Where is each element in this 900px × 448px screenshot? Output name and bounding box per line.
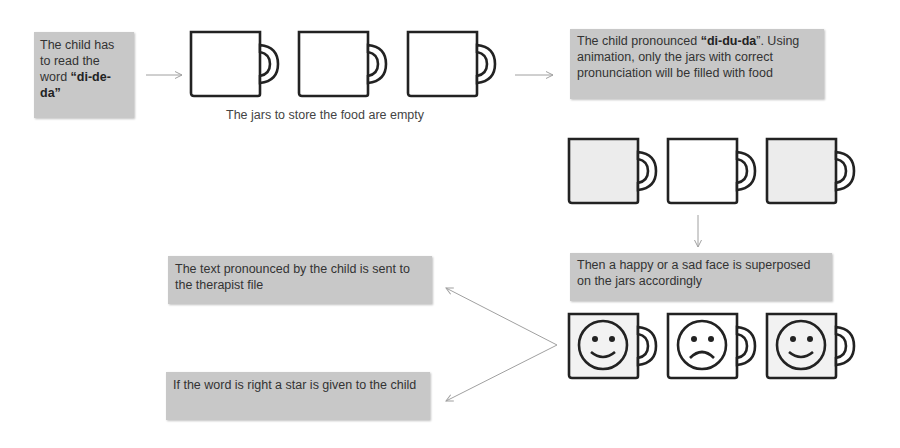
mug-filled-icon [567,137,659,205]
arrow-to-star [446,345,557,401]
empty-jars-caption: The jars to store the food are empty [226,108,424,122]
mug-empty-icon [406,30,498,98]
faces-text: Then a happy or a sad face is superposed… [577,258,810,288]
happy-face-icon [765,312,857,380]
step-read-word-box: The child has to read the word “di-de-da… [34,32,134,118]
pronounced-text: The child pronounced [577,34,701,48]
quote-close: ” [55,86,61,100]
step-therapist-box: The text pronounced by the child is sent… [168,256,432,304]
step-pronounced-box: The child pronounced “di-du-da”. Using a… [570,29,824,99]
sad-face-icon [666,312,758,380]
star-text: If the word is right a star is given to … [173,378,416,392]
mug-empty-icon [297,30,389,98]
pronounced-word: di-du-da [707,34,756,48]
mug-empty-icon [666,137,758,205]
therapist-text: The text pronounced by the child is sent… [175,262,410,292]
happy-face-icon [567,312,659,380]
step-star-box: If the word is right a star is given to … [166,372,430,420]
mug-empty-icon [189,30,281,98]
mug-filled-icon [765,137,857,205]
quote-close: ”. [756,34,764,48]
step-faces-box: Then a happy or a sad face is superposed… [570,253,832,301]
arrow-to-therapist [446,288,557,345]
